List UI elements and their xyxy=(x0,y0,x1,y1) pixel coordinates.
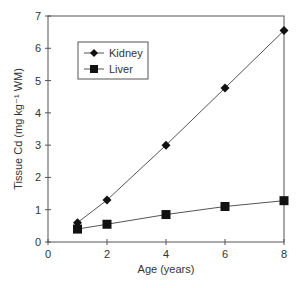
data-point-liver xyxy=(73,225,82,234)
data-point-liver xyxy=(103,220,112,229)
data-point-liver xyxy=(221,202,230,211)
data-point-liver xyxy=(280,196,289,205)
y-tick-label: 6 xyxy=(35,42,41,54)
axis-ticks: 0246801234567 xyxy=(35,10,287,260)
x-tick-label: 4 xyxy=(163,248,169,260)
legend-label-liver: Liver xyxy=(109,63,133,75)
y-tick-label: 1 xyxy=(35,204,41,216)
square-marker-icon xyxy=(90,65,98,73)
x-tick-label: 6 xyxy=(222,248,228,260)
y-tick-label: 5 xyxy=(35,75,41,87)
data-point-liver xyxy=(162,210,171,219)
legend: Kidney Liver xyxy=(78,42,148,79)
legend-label-kidney: Kidney xyxy=(109,47,143,59)
y-axis-label: Tissue Cd (mg kg⁻¹ WM) xyxy=(12,68,24,190)
y-tick-label: 3 xyxy=(35,139,41,151)
y-tick-label: 7 xyxy=(35,10,41,22)
y-tick-label: 2 xyxy=(35,171,41,183)
x-axis-label: Age (years) xyxy=(138,263,195,275)
x-tick-label: 2 xyxy=(104,248,110,260)
y-tick-label: 0 xyxy=(35,236,41,248)
y-tick-label: 4 xyxy=(35,107,41,119)
x-tick-label: 8 xyxy=(281,248,287,260)
x-tick-label: 0 xyxy=(45,248,51,260)
line-chart: 0246801234567 Age (years) Tissue Cd (mg … xyxy=(0,0,304,288)
